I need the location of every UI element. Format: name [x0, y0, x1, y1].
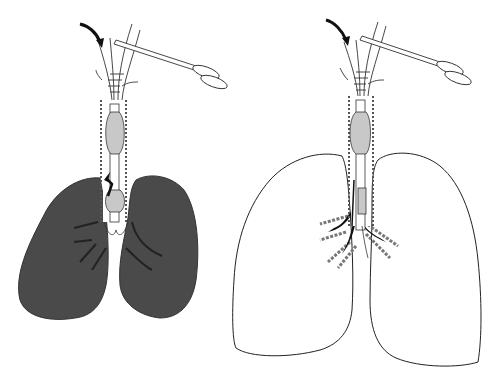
trachea-left: [101, 100, 128, 235]
flow-arrow-right: [326, 20, 346, 40]
collapsed-lung-right: [120, 176, 198, 318]
upper-cuff-right: [350, 112, 371, 154]
tubing-left: [96, 24, 140, 100]
flow-arrow-left: [80, 24, 100, 42]
figure: [0, 0, 499, 379]
left-panel: [19, 24, 229, 319]
clamp-left: [114, 40, 229, 91]
collapsed-lung-left: [19, 178, 109, 320]
inflated-lung-right: [370, 153, 481, 366]
tubing-right: [340, 22, 386, 96]
bronchial-cuff: [358, 188, 366, 214]
right-panel: [233, 20, 481, 366]
clamp-right: [360, 36, 473, 87]
upper-cuff: [106, 112, 125, 154]
